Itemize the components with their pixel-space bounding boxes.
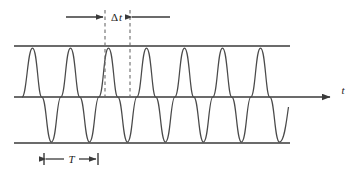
delta-t-label: Δ <box>111 11 118 23</box>
period-label-T: T <box>68 153 75 165</box>
axis-label-t: t <box>341 84 345 96</box>
waveform-canvas: t Δ t T <box>0 0 362 174</box>
sine-waveform <box>22 48 289 142</box>
delta-t-label-var: t <box>119 11 123 23</box>
waveform-figure: t Δ t T <box>0 0 362 174</box>
